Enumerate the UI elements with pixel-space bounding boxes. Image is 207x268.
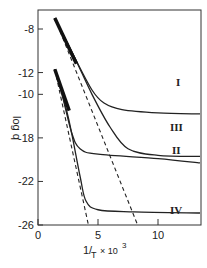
curve-asymptote-lower xyxy=(55,69,89,225)
curve-label-III: III xyxy=(170,121,183,133)
curve-label-I: I xyxy=(176,76,180,88)
curve-label-IV: IV xyxy=(170,204,182,216)
plot-frame xyxy=(38,10,201,225)
x-tick-label: 5 xyxy=(95,229,101,241)
svg-text:T: T xyxy=(91,250,97,260)
curve-label-II: II xyxy=(172,144,181,156)
y-tick-label: -10 xyxy=(18,88,34,100)
svg-text:× 10: × 10 xyxy=(100,246,118,256)
y-tick-label: -12 xyxy=(18,67,34,79)
x-tick-label: 10 xyxy=(152,229,164,241)
curve-i xyxy=(55,18,200,114)
curve-iv xyxy=(55,69,200,213)
svg-text:3: 3 xyxy=(122,241,127,250)
x-axis: 0510 xyxy=(35,219,164,241)
curve-asymptote-upper xyxy=(55,18,138,225)
y-axis-title: log q xyxy=(11,116,23,140)
y-tick-label: -26 xyxy=(18,219,34,231)
overlap-segment xyxy=(55,18,77,64)
y-tick-label: -22 xyxy=(18,175,34,187)
y-tick-label: -8 xyxy=(24,23,34,35)
x-axis-title: 1/ T × 10 3 xyxy=(83,241,127,260)
x-tick-label: 0 xyxy=(35,229,41,241)
chart: -8-12-10-18-22-26 0510 I III II IV log q… xyxy=(0,0,207,268)
